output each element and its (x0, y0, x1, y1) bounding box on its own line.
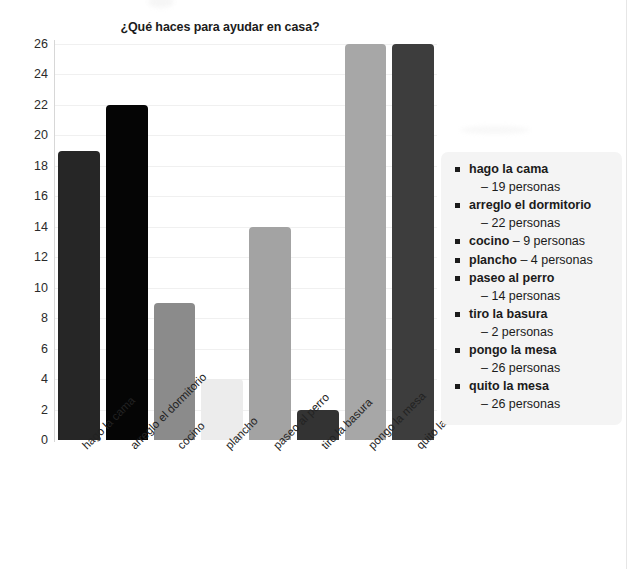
legend-item-count: – 26 personas (469, 396, 616, 414)
chart-title: ¿Qué haces para ayudar en casa? (0, 20, 440, 34)
legend-item-term: tiro la basura (469, 307, 548, 321)
y-tick-label: 14 (12, 220, 48, 234)
bar[interactable] (345, 44, 387, 440)
y-tick-label: 2 (12, 403, 48, 417)
y-tick-label: 4 (12, 372, 48, 386)
legend-item-term: plancho (469, 253, 517, 267)
bullet-icon (455, 167, 460, 172)
bullet-icon (455, 239, 460, 244)
legend-item-term: quito la mesa (469, 379, 549, 393)
y-axis-tick-labels: 02468101214161820222426 (8, 44, 48, 440)
y-tick-label: 24 (12, 67, 48, 81)
bar[interactable] (58, 151, 100, 440)
bar[interactable] (392, 44, 434, 440)
legend-item-term: paseo al perro (469, 271, 554, 285)
legend-item: quito la mesa– 26 personas (447, 378, 616, 413)
bullet-icon (455, 258, 460, 263)
scan-artifact (460, 126, 530, 134)
y-tick-label: 18 (12, 159, 48, 173)
legend-item-term: arreglo el dormitorio (469, 198, 591, 212)
legend-item: plancho – 4 personas (447, 252, 616, 270)
page-edge-line (626, 0, 627, 569)
y-tick-label: 8 (12, 311, 48, 325)
legend-item-count: – 9 personas (509, 234, 585, 248)
legend-item-count: – 22 personas (469, 215, 616, 233)
x-axis-tick-labels: hago la camaarreglo el dormitoriococinop… (55, 443, 437, 563)
legend-item: tiro la basura– 2 personas (447, 306, 616, 341)
bullet-icon (455, 203, 460, 208)
legend-item-count: – 4 personas (517, 253, 593, 267)
scan-artifact (148, 0, 174, 8)
bullet-icon (455, 312, 460, 317)
bullet-icon (455, 276, 460, 281)
legend-item: arreglo el dormitorio– 22 personas (447, 197, 616, 232)
y-tick-label: 0 (12, 433, 48, 447)
legend-item-count: – 26 personas (469, 360, 616, 378)
y-tick-label: 10 (12, 281, 48, 295)
legend: hago la cama– 19 personasarreglo el dorm… (441, 152, 622, 425)
legend-item: pongo la mesa– 26 personas (447, 342, 616, 377)
legend-item: cocino – 9 personas (447, 233, 616, 251)
y-tick-label: 22 (12, 98, 48, 112)
bar[interactable] (106, 105, 148, 440)
bar[interactable] (249, 227, 291, 440)
bullet-icon (455, 384, 460, 389)
y-tick-label: 20 (12, 128, 48, 142)
plot-area (55, 44, 437, 440)
legend-item-count: – 2 personas (469, 324, 616, 342)
y-tick-label: 16 (12, 189, 48, 203)
legend-item-term: pongo la mesa (469, 343, 557, 357)
legend-item-term: cocino (469, 234, 509, 248)
legend-item-count: – 19 personas (469, 179, 616, 197)
y-tick-label: 6 (12, 342, 48, 356)
legend-item: hago la cama– 19 personas (447, 161, 616, 196)
legend-item-count: – 14 personas (469, 288, 616, 306)
legend-item-term: hago la cama (469, 162, 548, 176)
y-tick-label: 26 (12, 37, 48, 51)
legend-item: paseo al perro– 14 personas (447, 270, 616, 305)
y-tick-label: 12 (12, 250, 48, 264)
bullet-icon (455, 348, 460, 353)
